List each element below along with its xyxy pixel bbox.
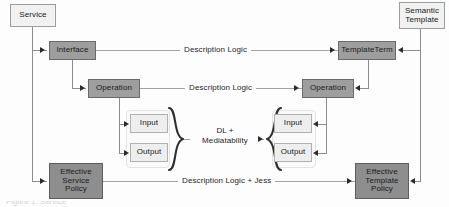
output-right-arrowhead bbox=[313, 150, 318, 156]
node-input-left-label: Input bbox=[139, 119, 159, 128]
node-operation-right-label: Operation bbox=[309, 84, 347, 93]
semantictemplate-to-templateterm-line bbox=[402, 50, 420, 51]
edge-label-description-logic-jess: Description Logic + Jess bbox=[178, 176, 275, 185]
semantictemplate-to-policy-arrowhead bbox=[410, 178, 415, 184]
node-output-right[interactable]: Output bbox=[274, 143, 312, 162]
node-effective-template-policy-label: Effective Template Policy bbox=[364, 168, 399, 195]
service-to-policy-arrowhead bbox=[40, 178, 45, 184]
node-input-right-label: Input bbox=[283, 119, 303, 128]
operation-operation-arrowhead bbox=[294, 85, 299, 91]
node-effective-service-policy[interactable]: Effective Service Policy bbox=[49, 163, 103, 199]
interface-templateterm-arrowhead bbox=[330, 47, 335, 53]
node-service[interactable]: Service bbox=[10, 4, 56, 27]
caption-fragment: Figure 1. Service bbox=[6, 201, 66, 206]
interface-to-operation-vline bbox=[72, 60, 73, 88]
node-effective-service-policy-label: Effective Service Policy bbox=[59, 168, 92, 195]
diagram-canvas: Service Semantic Template Interface Desc… bbox=[0, 0, 449, 207]
node-interface-label: Interface bbox=[55, 46, 89, 55]
node-interface[interactable]: Interface bbox=[49, 41, 96, 60]
interface-to-operation-arrowhead bbox=[80, 85, 85, 91]
node-input-left[interactable]: Input bbox=[130, 114, 168, 133]
node-service-label: Service bbox=[18, 11, 47, 20]
policy-policy-arrowhead bbox=[347, 178, 352, 184]
operation-left-to-io-vline bbox=[119, 98, 120, 153]
right-spine-vline bbox=[420, 29, 421, 181]
templateterm-to-operation-vline bbox=[368, 60, 369, 88]
input-right-arrowhead bbox=[313, 121, 318, 127]
semantictemplate-to-templateterm-arrowhead bbox=[398, 47, 403, 53]
node-templateterm[interactable]: TemplateTerm bbox=[338, 41, 396, 60]
output-left-arrowhead bbox=[124, 150, 129, 156]
node-effective-template-policy[interactable]: Effective Template Policy bbox=[355, 163, 409, 199]
edge-label-dl-mediatability: DL + Mediatability bbox=[190, 126, 260, 146]
node-output-left[interactable]: Output bbox=[130, 143, 168, 162]
edge-label-description-logic-1: Description Logic bbox=[180, 45, 251, 54]
operation-right-to-io-vline bbox=[326, 98, 327, 153]
node-input-right[interactable]: Input bbox=[274, 114, 312, 133]
io-center-arrowhead bbox=[258, 136, 263, 142]
node-semantic-template-label: Semantic Template bbox=[404, 7, 440, 25]
node-output-right-label: Output bbox=[280, 148, 307, 157]
input-left-arrowhead bbox=[124, 121, 129, 127]
templateterm-to-operation-arrowhead bbox=[355, 85, 360, 91]
node-output-left-label: Output bbox=[136, 148, 163, 157]
caption-strip: Figure 1. Service bbox=[0, 201, 449, 207]
service-to-interface-arrowhead bbox=[40, 47, 45, 53]
node-templateterm-label: TemplateTerm bbox=[340, 46, 393, 55]
node-semantic-template[interactable]: Semantic Template bbox=[399, 2, 445, 29]
node-operation-left[interactable]: Operation bbox=[88, 79, 140, 98]
edge-label-description-logic-2: Description Logic bbox=[185, 83, 256, 92]
node-operation-left-label: Operation bbox=[95, 84, 133, 93]
node-operation-right[interactable]: Operation bbox=[302, 79, 354, 98]
brace-left bbox=[166, 106, 186, 172]
